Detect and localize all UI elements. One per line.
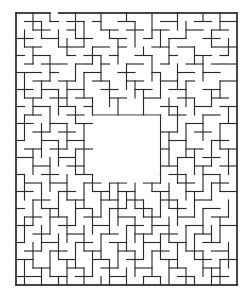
maze-canvas <box>0 0 252 299</box>
maze-page <box>0 0 252 299</box>
maze-figure <box>0 0 252 299</box>
maze-center-room <box>93 116 159 182</box>
